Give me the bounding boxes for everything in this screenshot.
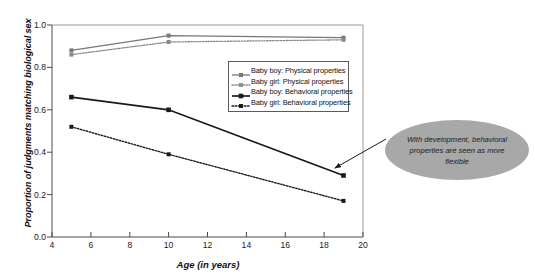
x-tick-label: 16 xyxy=(273,240,297,250)
x-tick-label: 12 xyxy=(196,240,220,250)
annotation-callout-text: With development, behavioral properties … xyxy=(398,134,516,167)
legend-item-label: Baby girl: Physical properties xyxy=(251,77,343,86)
legend-item-baby-girl-behavioral: Baby girl: Behavioral properties xyxy=(231,97,345,107)
legend-item-baby-boy-physical: Baby boy: Physical properties xyxy=(231,66,345,76)
legend-item-label: Baby girl: Behavioral properties xyxy=(251,98,351,107)
chart-figure: 1.0 0.8 0.6 0.4 0.2 0.0 4 6 8 10 12 14 1… xyxy=(0,0,535,279)
y-axis-ticks xyxy=(47,25,52,237)
series-baby-girl-behavioral xyxy=(69,125,345,203)
legend-line-dotted-gray-icon xyxy=(231,76,251,86)
x-tick-label: 10 xyxy=(157,240,181,250)
x-tick-label: 4 xyxy=(40,240,64,250)
x-tick-label: 6 xyxy=(79,240,103,250)
x-tick-label: 14 xyxy=(234,240,258,250)
legend-line-solid-black-icon xyxy=(231,87,251,97)
legend-item-baby-girl-physical: Baby girl: Physical properties xyxy=(231,76,345,86)
annotation-callout: With development, behavioral properties … xyxy=(385,120,529,180)
x-axis-ticks xyxy=(52,232,363,237)
x-tick-label: 18 xyxy=(312,240,336,250)
legend-line-solid-gray-icon xyxy=(231,66,251,76)
x-tick-label: 8 xyxy=(118,240,142,250)
chart-legend: Baby boy: Physical properties Baby girl:… xyxy=(228,61,349,112)
plot-axes xyxy=(52,25,363,237)
legend-line-dotted-black-icon xyxy=(231,97,251,107)
legend-item-label: Baby boy: Behavioral properties xyxy=(251,87,353,96)
x-axis-title: Age (in years) xyxy=(52,259,364,270)
annotation-arrow xyxy=(335,139,386,168)
y-axis-title: Proportion of judgments matching biologi… xyxy=(23,13,33,233)
legend-item-label: Baby boy: Physical properties xyxy=(251,66,345,75)
series-baby-girl-physical xyxy=(69,38,345,57)
legend-item-baby-boy-behavioral: Baby boy: Behavioral properties xyxy=(231,87,345,97)
x-tick-label: 20 xyxy=(351,240,375,250)
